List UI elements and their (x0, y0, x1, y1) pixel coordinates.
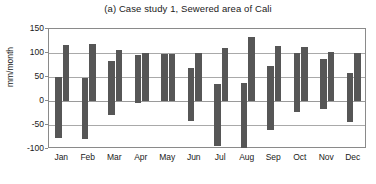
x-axis-tick-label: Dec (338, 152, 368, 162)
x-axis-tick-label: Sep (258, 152, 288, 162)
x-axis-tick-label: Jul (205, 152, 235, 162)
bar (116, 50, 123, 101)
bar (169, 54, 176, 101)
bar (320, 59, 327, 101)
bar (161, 54, 168, 101)
y-axis-tick-label: 0 (2, 96, 44, 105)
plot-area (48, 28, 366, 148)
x-axis-tick-label: Feb (73, 152, 103, 162)
chart-title: (a) Case study 1, Sewered area of Cali (0, 3, 376, 14)
bar (267, 101, 274, 130)
bar (108, 61, 115, 101)
y-axis-tick-label: 150 (2, 24, 44, 33)
y-axis-tick-label: 50 (2, 72, 44, 81)
y-axis-ticks: 150100500-50-100 (0, 28, 44, 148)
x-axis-tick-label: Nov (311, 152, 341, 162)
y-axis-tick-mark (45, 148, 48, 149)
bar (294, 53, 301, 101)
y-axis-tick-label: 100 (2, 48, 44, 57)
bar (214, 101, 221, 146)
bar (195, 53, 202, 101)
y-axis-tick-label: -100 (2, 144, 44, 153)
bar (63, 45, 70, 101)
bars-layer (49, 29, 365, 147)
bar (320, 101, 327, 109)
bar (135, 55, 142, 101)
bar (241, 101, 248, 148)
bar (347, 101, 354, 122)
x-axis-tick-label: May (152, 152, 182, 162)
bar (142, 53, 149, 101)
bar (89, 44, 96, 101)
y-axis-tick-label: -50 (2, 120, 44, 129)
x-axis-tick-label: Apr (126, 152, 156, 162)
bar (267, 66, 274, 101)
chart-container: (a) Case study 1, Sewered area of Cali m… (0, 0, 376, 184)
bar (354, 53, 361, 101)
bar (347, 73, 354, 101)
x-axis-tick-label: Jun (179, 152, 209, 162)
x-axis-tick-label: Oct (285, 152, 315, 162)
bar (55, 101, 62, 138)
bar (301, 47, 308, 101)
bar (188, 101, 195, 121)
x-axis-labels: JanFebMarAprMayJunJulAugSepOctNovDec (48, 152, 366, 166)
bar (241, 83, 248, 101)
bar (135, 101, 142, 103)
bar (275, 46, 282, 101)
bar (214, 84, 221, 101)
bar (108, 101, 115, 115)
x-axis-tick-label: Aug (232, 152, 262, 162)
bar (82, 101, 89, 139)
bar (222, 48, 229, 101)
bar (82, 78, 89, 101)
bar (328, 52, 335, 101)
x-axis-tick-label: Mar (99, 152, 129, 162)
x-axis-tick-label: Jan (46, 152, 76, 162)
bar (248, 37, 255, 101)
bar (55, 77, 62, 101)
bar (294, 101, 301, 112)
bar (188, 68, 195, 101)
